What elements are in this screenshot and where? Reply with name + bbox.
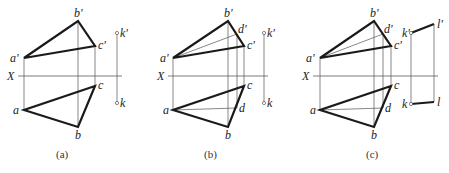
- label-l: l: [437, 95, 441, 109]
- label-b: b: [225, 128, 231, 142]
- caption-a: (a): [56, 148, 69, 161]
- caption-c: (c): [366, 148, 379, 161]
- label-a: a: [163, 103, 169, 117]
- label-a: a: [13, 103, 19, 117]
- orthographic-projection-figure: X a' b' c' k' a b c k (a) X: [0, 0, 449, 173]
- label-c: c: [98, 78, 104, 92]
- point-k-prime: [115, 31, 118, 34]
- label-d-prime: d': [238, 22, 247, 36]
- label-d-prime: d': [384, 22, 393, 36]
- triangle-top-view: [173, 86, 244, 127]
- label-a-prime: a': [10, 51, 19, 65]
- x-axis-label: X: [156, 69, 165, 83]
- label-b-prime: b': [74, 6, 83, 20]
- label-d: d: [385, 101, 392, 115]
- panel-a: X a' b' c' k' a b c k (a): [6, 6, 128, 161]
- caption-b: (b): [204, 148, 217, 161]
- label-a-prime: a': [306, 51, 315, 65]
- triangle-front-view: [24, 21, 95, 58]
- label-c-prime: c': [394, 38, 402, 52]
- triangle-front-view: [320, 21, 391, 58]
- label-l-prime: l': [437, 17, 443, 31]
- point-k: [409, 102, 412, 105]
- triangle-front-view: [173, 21, 244, 58]
- label-d: d: [239, 101, 246, 115]
- segment-k-l: [411, 102, 434, 104]
- panel-b: X a' b' d' c' k' a b c d k (b): [156, 6, 275, 161]
- label-a: a: [310, 103, 316, 117]
- label-k-prime: k': [402, 26, 410, 40]
- label-c: c: [247, 78, 253, 92]
- label-k: k: [120, 96, 126, 110]
- label-k: k: [402, 97, 408, 111]
- point-k-prime: [262, 31, 265, 34]
- label-b-prime: b': [370, 6, 379, 20]
- point-k: [115, 101, 118, 104]
- label-c: c: [394, 78, 400, 92]
- label-b-prime: b': [224, 6, 233, 20]
- triangle-top-view: [24, 86, 95, 127]
- label-a-prime: a': [160, 51, 169, 65]
- label-b: b: [75, 128, 81, 142]
- label-c-prime: c': [247, 38, 255, 52]
- label-k: k: [267, 96, 273, 110]
- panel-c: X a' b' d' c' k' l' a b c d k l (c): [301, 6, 443, 161]
- point-k: [262, 101, 265, 104]
- label-b: b: [371, 128, 377, 142]
- label-k-prime: k': [120, 26, 128, 40]
- segment-k-prime-l-prime: [411, 24, 434, 33]
- label-k-prime: k': [267, 26, 275, 40]
- auxiliary-line-a-d: [320, 108, 383, 110]
- x-axis-label: X: [301, 69, 310, 83]
- label-c-prime: c': [98, 38, 106, 52]
- triangle-top-view: [320, 86, 391, 127]
- x-axis-label: X: [6, 69, 15, 83]
- auxiliary-line-a-d: [173, 108, 237, 110]
